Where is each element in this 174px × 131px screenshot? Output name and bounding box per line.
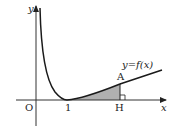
tick-label-1: 1 [65, 102, 71, 113]
origin-label: O [25, 102, 33, 113]
function-graph: y x O 1 H A y=f(x) [0, 0, 174, 131]
right-angle-marker [120, 95, 125, 100]
point-label-H: H [115, 102, 124, 113]
y-axis-label: y [27, 3, 34, 14]
point-label-A: A [116, 71, 125, 82]
curve-f [40, 8, 162, 100]
x-axis-label: x [161, 102, 167, 113]
curve-label: y=f(x) [121, 59, 153, 70]
